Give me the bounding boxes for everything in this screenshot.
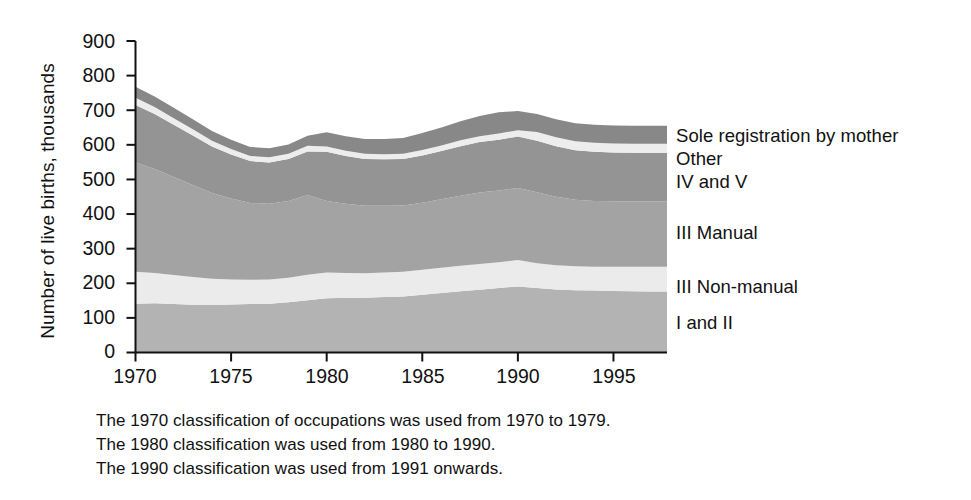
legend-item-i-and-ii: I and II	[676, 312, 733, 334]
note-line-3: The 1990 classification was used from 19…	[96, 459, 503, 479]
note-line-1: The 1970 classification of occupations w…	[96, 411, 611, 431]
legend-item-sole-registration: Sole registration by mother	[676, 125, 898, 147]
legend-item-iii-non-manual: III Non-manual	[676, 276, 798, 298]
chart-figure: Number of live births, thousands 900 800…	[0, 0, 971, 500]
legend-item-iv-and-v: IV and V	[676, 171, 747, 193]
legend-item-iii-manual: III Manual	[676, 222, 758, 244]
area-bands	[136, 87, 668, 353]
note-line-2: The 1980 classification was used from 19…	[96, 435, 495, 455]
legend-item-other: Other	[676, 148, 723, 170]
